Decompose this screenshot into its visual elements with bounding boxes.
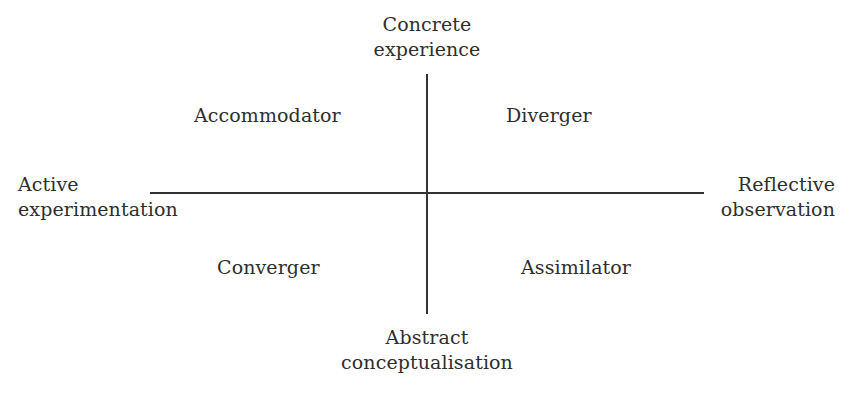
quadrant-label-assimilator: Assimilator [521, 255, 631, 280]
quadrant-label-accommodator: Accommodator [194, 103, 341, 128]
axis-label-bottom-line2: conceptualisation [297, 350, 557, 375]
axis-label-top-line2: experience [327, 37, 527, 62]
axis-label-top: Concrete experience [327, 12, 527, 62]
quadrant-label-diverger: Diverger [506, 103, 592, 128]
quadrant-label-converger: Converger [217, 255, 320, 280]
axis-label-right: Reflective observation [640, 172, 835, 222]
learning-styles-quadrant-diagram: Concrete experience Abstract conceptuali… [0, 0, 861, 405]
axis-label-bottom-line1: Abstract [297, 325, 557, 350]
axis-label-bottom: Abstract conceptualisation [297, 325, 557, 375]
axis-label-left-line1: Active [18, 172, 178, 197]
axis-label-right-line1: Reflective [640, 172, 835, 197]
axis-label-left-line2: experimentation [18, 197, 178, 222]
vertical-axis-line [426, 74, 428, 314]
axis-label-left: Active experimentation [18, 172, 178, 222]
axis-label-top-line1: Concrete [327, 12, 527, 37]
axis-label-right-line2: observation [640, 197, 835, 222]
